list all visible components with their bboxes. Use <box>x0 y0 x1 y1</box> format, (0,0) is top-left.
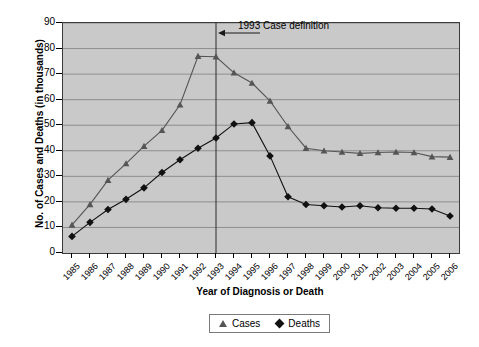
data-point-deaths-2001 <box>356 202 364 210</box>
x-tick-mark-1985 <box>71 253 72 258</box>
chart-plot-svg <box>63 23 459 253</box>
legend-item-cases: Cases <box>219 318 260 329</box>
data-point-deaths-2005 <box>428 205 436 213</box>
x-tick-mark-1998 <box>305 253 306 258</box>
x-tick-mark-2006 <box>449 253 450 258</box>
triangle-marker-icon <box>219 320 227 327</box>
series-line-deaths <box>72 123 450 237</box>
x-tick-mark-1988 <box>125 253 126 258</box>
y-tick-label-90: 90 <box>21 17 55 27</box>
legend-label-deaths: Deaths <box>288 318 320 329</box>
y-tick-label-20: 20 <box>21 196 55 206</box>
data-point-deaths-1987 <box>104 206 112 214</box>
data-point-deaths-2004 <box>410 204 418 212</box>
x-tick-mark-2005 <box>431 253 432 258</box>
x-tick-mark-1989 <box>143 253 144 258</box>
x-tick-mark-2004 <box>413 253 414 258</box>
plot-area <box>62 22 460 254</box>
x-tick-mark-1987 <box>107 253 108 258</box>
x-tick-mark-2001 <box>359 253 360 258</box>
x-tick-mark-1990 <box>161 253 162 258</box>
data-point-deaths-2003 <box>392 204 400 212</box>
y-tick-label-60: 60 <box>21 94 55 104</box>
data-point-cases-1995 <box>249 80 256 86</box>
y-tick-label-80: 80 <box>21 43 55 53</box>
x-tick-mark-1992 <box>197 253 198 258</box>
x-tick-mark-1991 <box>179 253 180 258</box>
data-point-deaths-2006 <box>446 212 454 220</box>
x-tick-mark-1995 <box>251 253 252 258</box>
y-tick-label-30: 30 <box>21 170 55 180</box>
data-point-deaths-1999 <box>320 202 328 210</box>
y-tick-label-50: 50 <box>21 119 55 129</box>
x-tick-mark-2003 <box>395 253 396 258</box>
x-tick-mark-1986 <box>89 253 90 258</box>
legend-label-cases: Cases <box>232 318 260 329</box>
x-tick-mark-2000 <box>341 253 342 258</box>
y-tick-label-40: 40 <box>21 145 55 155</box>
x-tick-mark-1999 <box>323 253 324 258</box>
y-tick-label-0: 0 <box>21 247 55 257</box>
chart-container: No. of Cases and Deaths (in thousands) 9… <box>0 0 479 347</box>
annotation-1993-case-definition: 1993 Case definition <box>238 20 329 31</box>
x-tick-mark-2002 <box>377 253 378 258</box>
x-tick-mark-1997 <box>287 253 288 258</box>
data-point-cases-1991 <box>177 101 184 107</box>
x-axis-title: Year of Diagnosis or Death <box>62 286 458 297</box>
legend-item-deaths: Deaths <box>276 318 320 329</box>
data-point-deaths-1997 <box>284 193 292 201</box>
chart-legend: Cases Deaths <box>209 314 330 333</box>
x-tick-mark-1993 <box>215 253 216 258</box>
data-point-deaths-2002 <box>374 204 382 212</box>
y-tick-label-10: 10 <box>21 221 55 231</box>
diamond-marker-icon <box>275 319 285 329</box>
x-tick-mark-1994 <box>233 253 234 258</box>
annotation-arrow-head-left-icon <box>218 30 225 36</box>
data-point-deaths-1996 <box>266 152 274 160</box>
x-tick-mark-1996 <box>269 253 270 258</box>
data-point-deaths-2000 <box>338 203 346 211</box>
y-tick-label-70: 70 <box>21 68 55 78</box>
data-point-deaths-1991 <box>176 156 184 164</box>
